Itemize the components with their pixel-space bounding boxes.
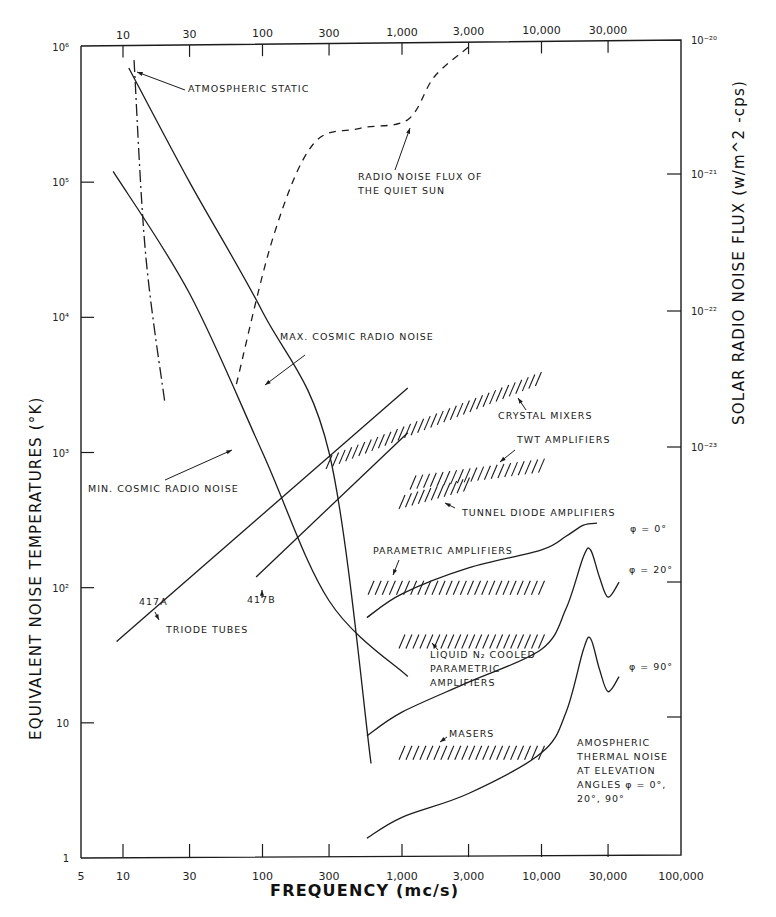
hatch-stroke <box>470 398 476 412</box>
y-tick-label: 10 <box>56 718 69 729</box>
hatch-stroke <box>391 429 397 443</box>
x-tick-label: 100,000 <box>658 870 704 883</box>
hatch-stroke <box>476 634 482 648</box>
hatch-stroke <box>413 746 419 760</box>
hatch-stroke <box>482 581 488 595</box>
hatch-stroke <box>464 468 470 482</box>
annotation-label: ANGLES φ = 0°, <box>577 779 666 790</box>
hatch-stroke <box>437 411 443 425</box>
band-liquid-n2-cooled-parametric-amplifiers <box>399 634 545 648</box>
hatch-stroke <box>525 634 531 648</box>
hatch-stroke <box>532 459 538 473</box>
hatch-stroke <box>455 746 461 760</box>
hatch-stroke <box>441 634 447 648</box>
hatch-stroke <box>448 634 454 648</box>
hatch-stroke <box>477 395 483 409</box>
hatch-stroke <box>462 746 468 760</box>
hatch-stroke <box>405 493 411 507</box>
y-tick-label: 10⁴ <box>52 312 69 323</box>
hatch-stroke <box>478 467 484 481</box>
hatch-stroke <box>375 581 381 595</box>
hatch-stroke <box>538 581 544 595</box>
arrow-head-icon <box>226 450 232 454</box>
y2-tick-label: 10⁻²³ <box>691 442 717 453</box>
hatch-stroke <box>496 581 502 595</box>
hatch-stroke <box>365 439 371 453</box>
arrow-line <box>395 128 410 170</box>
y2-tick-label: 10⁻²² <box>691 306 717 317</box>
x-top-tick-label: 30,000 <box>589 24 628 37</box>
hatch-stroke <box>437 472 443 486</box>
x-tick-label: 30 <box>183 870 197 883</box>
hatch-stroke <box>411 421 417 435</box>
annotation-label: ATMOSPHERIC STATIC <box>188 83 309 94</box>
hatch-stroke <box>420 746 426 760</box>
hatch-stroke <box>535 372 541 386</box>
hatch-stroke <box>490 634 496 648</box>
hatch-stroke <box>490 390 496 404</box>
annotation-label: RADIO NOISE FLUX OF <box>358 171 482 182</box>
hatch-stroke <box>399 495 405 509</box>
hatch-stroke <box>517 581 523 595</box>
arrow-head-icon <box>155 614 159 620</box>
hatch-stroke <box>511 462 517 476</box>
arrow-head-icon <box>406 128 410 134</box>
annotation-label: TRIODE TUBES <box>165 624 248 635</box>
hatch-stroke <box>434 746 440 760</box>
hatch-stroke <box>525 460 531 474</box>
hatch-stroke <box>378 434 384 448</box>
hatch-stroke <box>505 463 511 477</box>
band-masers <box>399 746 545 760</box>
annotation-label: MASERS <box>449 728 494 739</box>
x-top-tick-label: 100 <box>252 27 273 40</box>
hatch-stroke <box>352 445 358 459</box>
curve-atmospheric-static <box>134 60 165 404</box>
y2-tick-label: 10⁻²⁰ <box>691 35 717 46</box>
hatch-stroke <box>503 385 509 399</box>
hatch-stroke <box>413 634 419 648</box>
hatch-stroke <box>431 486 437 500</box>
annotation-label: φ = 90° <box>629 661 673 672</box>
hatch-stroke <box>510 581 516 595</box>
hatch-stroke <box>496 388 502 402</box>
hatch-stroke <box>469 634 475 648</box>
hatch-stroke <box>538 634 544 648</box>
x-top-tick-label: 1,000 <box>386 26 418 39</box>
hatch-stroke <box>453 581 459 595</box>
hatch-stroke <box>359 442 365 456</box>
hatch-stroke <box>532 634 538 648</box>
hatch-stroke <box>418 490 424 504</box>
hatch-stroke <box>464 477 470 491</box>
arrow-head-icon <box>137 72 143 76</box>
hatch-stroke <box>346 447 352 461</box>
hatch-stroke <box>439 581 445 595</box>
hatch-stroke <box>446 581 452 595</box>
band-twt-amplifiers <box>410 459 544 490</box>
hatch-stroke <box>524 581 530 595</box>
annotation-label: TWT AMPLIFIERS <box>516 434 610 445</box>
annotation-label: THE QUIET SUN <box>357 185 445 196</box>
hatch-stroke <box>406 746 412 760</box>
x-top-tick-label: 3,000 <box>453 25 485 38</box>
axis-lines <box>81 40 681 858</box>
y2-axis-title: SOLAR RADIO NOISE FLUX (w/m^2 -cps) <box>730 80 748 425</box>
hatch-stroke <box>476 746 482 760</box>
hatch-stroke <box>389 581 395 595</box>
hatch-stroke <box>418 419 424 433</box>
hatch-stroke <box>457 403 463 417</box>
annotation-label: PARAMETRIC AMPLIFIERS <box>373 545 513 556</box>
x-axis-title: FREQUENCY (mc/s) <box>270 881 459 900</box>
hatch-stroke <box>425 488 431 502</box>
hatch-stroke <box>417 475 423 489</box>
annotation-label: φ = 20° <box>629 564 673 575</box>
hatch-stroke <box>518 746 524 760</box>
arrow-head-icon <box>440 737 446 742</box>
hatch-stroke <box>529 375 535 389</box>
hatch-stroke <box>511 746 517 760</box>
x-top-tick-label: 300 <box>319 27 340 40</box>
hatch-stroke <box>450 406 456 420</box>
noise-temperature-chart: 510301003001,0003,00010,00030,000100,000… <box>0 0 776 917</box>
x-tick-label: 5 <box>78 870 85 883</box>
hatch-stroke <box>412 492 418 506</box>
arrow-line <box>137 72 185 90</box>
